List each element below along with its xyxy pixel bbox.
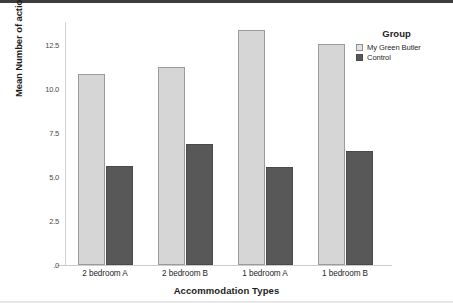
legend-item-my-green-butler: My Green Butler (356, 43, 451, 52)
bar-control (266, 167, 293, 265)
plot-area: 12.510.07.55.02.5.0 (65, 22, 385, 265)
bar-my-green-butler (158, 67, 185, 265)
y-axis-tick-label: .0 (53, 261, 59, 270)
x-axis-line (57, 265, 392, 266)
x-axis-tick-label: 2 bedroom A (82, 269, 127, 278)
y-axis-tick-label: 2.5 (49, 216, 59, 225)
y-axis-tick-label: 7.5 (49, 128, 59, 137)
legend-swatch-icon-dark (356, 54, 363, 61)
x-axis-title: Accommodation Types (0, 285, 453, 296)
legend-label: My Green Butler (367, 43, 421, 52)
bar-control (106, 166, 133, 265)
legend: Group My Green Butler Control (356, 28, 451, 63)
y-axis-tick-label: 10.0 (45, 84, 59, 93)
y-axis-tick-label: 12.5 (45, 40, 59, 49)
legend-swatch-icon-light (356, 44, 363, 51)
x-axis-tick-label: 1 bedroom B (322, 269, 368, 278)
legend-label: Control (367, 53, 391, 62)
y-axis-tick-label: 5.0 (49, 172, 59, 181)
bar-my-green-butler (78, 74, 105, 265)
chart-figure: Mean Number of actions 12.510.07.55.02.5… (0, 0, 453, 303)
legend-item-control: Control (356, 53, 451, 62)
x-axis-tick-label: 2 bedroom B (162, 269, 208, 278)
figure-top-edge (0, 0, 453, 3)
bar-my-green-butler (238, 30, 265, 265)
bar-control (186, 144, 213, 266)
bar-my-green-butler (318, 44, 345, 265)
legend-title: Group (356, 28, 451, 39)
x-axis-tick-label: 1 bedroom A (242, 269, 287, 278)
y-axis-title: Mean Number of actions (12, 0, 26, 108)
bar-control (346, 151, 373, 265)
